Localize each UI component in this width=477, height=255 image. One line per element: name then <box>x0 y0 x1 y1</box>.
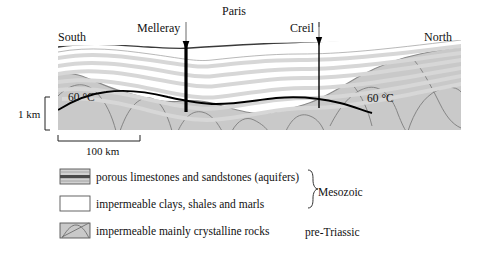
legend-swatch-clay <box>60 196 90 211</box>
isotherm-label-right: 60 °C <box>367 92 394 104</box>
horizontal-scale-bar <box>58 135 140 141</box>
legend-label-clay: impermeable clays, shales and marls <box>96 198 264 210</box>
well-label-melleray: Melleray <box>137 21 180 36</box>
legend-group-label-pretriassic: pre-Triassic <box>305 226 360 238</box>
paris-label: Paris <box>222 4 246 19</box>
section-body <box>58 34 461 131</box>
legend-label-aquifer: porous limestones and sandstones (aquife… <box>96 171 299 183</box>
vertical-scale-label: 1 km <box>18 108 40 120</box>
legend-label-basement: impermeable mainly crystalline rocks <box>96 225 269 237</box>
well-label-creil: Creil <box>290 21 314 36</box>
direction-label-south: South <box>58 30 86 45</box>
isotherm-label-left: 60 °C <box>68 91 95 103</box>
mesozoic-brace <box>308 170 318 208</box>
legend-group-label-mesozoic: Mesozoic <box>318 186 363 198</box>
horizontal-scale-label: 100 km <box>86 145 119 157</box>
legend-swatch-aquifer <box>60 169 90 184</box>
vertical-scale-bar <box>45 97 50 130</box>
direction-label-north: North <box>424 30 452 45</box>
legend-swatch-basement <box>60 223 90 238</box>
